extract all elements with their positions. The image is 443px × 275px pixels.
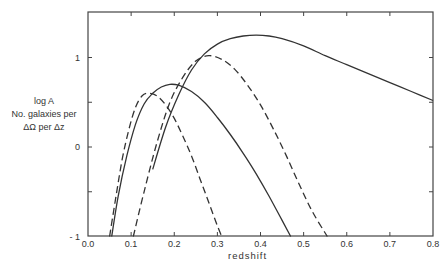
- y-tick-label: 0: [75, 142, 80, 152]
- data-curves: [110, 35, 433, 236]
- plot-border: [88, 12, 433, 236]
- x-tick-label: 0.1: [125, 239, 138, 249]
- x-axis-label: redshift: [228, 250, 267, 261]
- x-tick-label: 0.5: [297, 239, 310, 249]
- x-tick-label: 0.4: [254, 239, 267, 249]
- x-tick-label: 0.2: [168, 239, 181, 249]
- y-tick-label: - 1: [69, 232, 80, 242]
- plot-frame: [88, 12, 433, 236]
- y-axis-label-line-3: ΔΩ per Δz: [4, 121, 84, 134]
- x-tick-label: 0.6: [340, 239, 353, 249]
- x-tick-label: 0.7: [384, 239, 397, 249]
- y-axis-label-line-2: No. galaxies per: [4, 108, 84, 121]
- x-tick-label: 0.8: [427, 239, 440, 249]
- chart-plot: 0.00.10.20.30.40.50.60.70.8- 101: [0, 0, 443, 275]
- x-tick-label: 0.3: [211, 239, 224, 249]
- x-tick-label: 0.0: [82, 239, 95, 249]
- series-line-3: [133, 56, 327, 237]
- series-line-4: [153, 35, 433, 169]
- y-tick-label: 1: [75, 53, 80, 63]
- axis-ticks: 0.00.10.20.30.40.50.60.70.8- 101: [69, 12, 439, 249]
- y-axis-label: log A No. galaxies per ΔΩ per Δz: [4, 95, 84, 134]
- y-axis-label-line-1: log A: [4, 95, 84, 108]
